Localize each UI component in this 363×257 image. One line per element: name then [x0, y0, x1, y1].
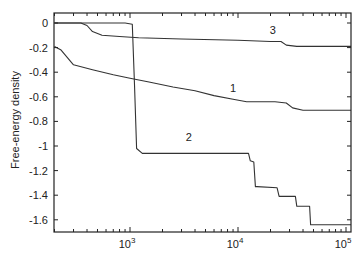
curve-labels: 123 — [186, 24, 276, 143]
y-tick-label: -1.2 — [29, 165, 48, 177]
y-tick-label: 0 — [42, 17, 48, 29]
y-tick-label: -1.6 — [29, 214, 48, 226]
free-energy-chart: 123 0-0.2-0.4-0.6-0.8-1-1.2-1.4-1.610310… — [0, 0, 363, 257]
curve-label-2: 2 — [186, 131, 192, 143]
y-tick-label: -0.4 — [29, 66, 48, 78]
x-tick-label: 105 — [335, 236, 352, 250]
curve-3 — [55, 23, 352, 46]
curves — [55, 23, 352, 225]
y-tick-label: -1.4 — [29, 189, 48, 201]
curve-label-1: 1 — [230, 82, 236, 94]
y-tick-label: -0.2 — [29, 42, 48, 54]
plot-frame — [54, 13, 351, 232]
curve-2 — [55, 23, 352, 225]
y-tick-label: -1 — [38, 140, 48, 152]
y-axis-label: Free-energy density — [9, 71, 21, 169]
y-tick-label: -0.8 — [29, 115, 48, 127]
x-tick-label: 104 — [227, 236, 244, 250]
curve-1 — [55, 46, 352, 110]
curve-label-3: 3 — [270, 24, 276, 36]
x-tick-label: 103 — [119, 236, 136, 250]
y-tick-label: -0.6 — [29, 91, 48, 103]
